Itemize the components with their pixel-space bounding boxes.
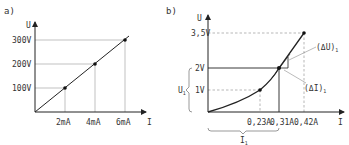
panel-b-point-3-5v [302,31,306,35]
panel-b-nonlinear-curve [208,33,304,112]
panel-b-point-1v [258,88,262,92]
panel-b-x-label: I [338,118,343,127]
panel-b-y-tick-2v: 2V [195,64,205,73]
panel-a-point-1 [63,86,67,90]
panel-b-x-tick-0-23a: 0,23A [247,118,271,127]
panel-a-y-label: U [26,21,31,30]
panel-a-y-tick-100: 100V [12,84,31,93]
panel-a-x-tick-6ma: 6mA [116,118,131,127]
panel-b-tangent-line [272,54,290,78]
panel-b-x-tick-0-42a: 0,42A [294,118,318,127]
panel-a-y-tick-200: 200V [12,60,31,69]
panel-a: a) U I 100V 200V 300V 2mA 4mA 6mA [4,6,152,127]
panel-b-point-2v [277,66,281,70]
panel-b-y-label: U [197,14,202,23]
panel-b-title: b) [166,6,177,16]
panel-a-point-3 [123,38,127,42]
panel-b-delta-i-label: (ΔI)1 [304,84,326,94]
panel-a-point-2 [93,62,97,66]
panel-b-x-tick-0-31a: 0,31A [270,118,294,127]
panel-b-u1-brace [186,68,192,112]
panel-a-x-tick-2ma: 2mA [56,118,71,127]
panel-b-y-tick-3-5v: 3,5V [191,29,210,38]
panel-b-y-tick-1v: 1V [195,86,205,95]
panel-b-u1-label: U1 [178,86,186,96]
panel-b: b) U I 3,5V 2V [166,6,344,145]
panel-a-x-label: I [147,118,152,127]
panel-b-dashed-guides [208,33,304,112]
diagram-canvas: a) U I 100V 200V 300V 2mA 4mA 6mA b) [0,0,349,145]
panel-a-title: a) [4,6,15,16]
panel-a-linear-curve [35,36,129,112]
panel-b-i1-brace [208,128,279,134]
panel-b-delta-i-leader [284,70,306,83]
panel-a-y-tick-300: 300V [12,36,31,45]
panel-b-delta-u-label: (ΔU)1 [316,43,338,53]
panel-a-x-tick-4ma: 4mA [86,118,101,127]
panel-b-i1-label: I1 [240,136,248,145]
